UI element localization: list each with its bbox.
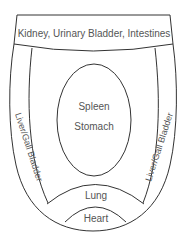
center-ellipse xyxy=(57,64,131,176)
label-heart: Heart xyxy=(84,213,109,224)
label-lung: Lung xyxy=(85,190,107,201)
label-stomach: Stomach xyxy=(74,121,113,132)
label-liver-gall-bladder-right: Liver/Gall Bladder xyxy=(143,112,175,183)
organ-map-diagram: Kidney, Urinary Bladder, Intestines Sple… xyxy=(0,0,186,242)
label-spleen: Spleen xyxy=(78,101,109,112)
label-kidney-bladder-intestines: Kidney, Urinary Bladder, Intestines xyxy=(18,28,171,39)
top-band-divider xyxy=(14,44,173,51)
